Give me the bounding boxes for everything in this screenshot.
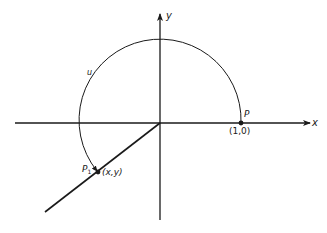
point-p1-subscript: 1 (87, 168, 91, 175)
arc-label-u: u (87, 69, 92, 77)
x-axis-label: x (312, 118, 318, 128)
point-p-dot (239, 121, 244, 126)
point-p1-label: P1 (82, 165, 91, 175)
point-p1-coords: (x,y) (102, 168, 123, 177)
y-axis-label: y (166, 11, 172, 21)
point-p-label: P (244, 110, 249, 119)
unit-circle-diagram (0, 0, 327, 233)
point-p1-dot (96, 170, 101, 175)
point-p-coords: (1,0) (229, 127, 250, 136)
